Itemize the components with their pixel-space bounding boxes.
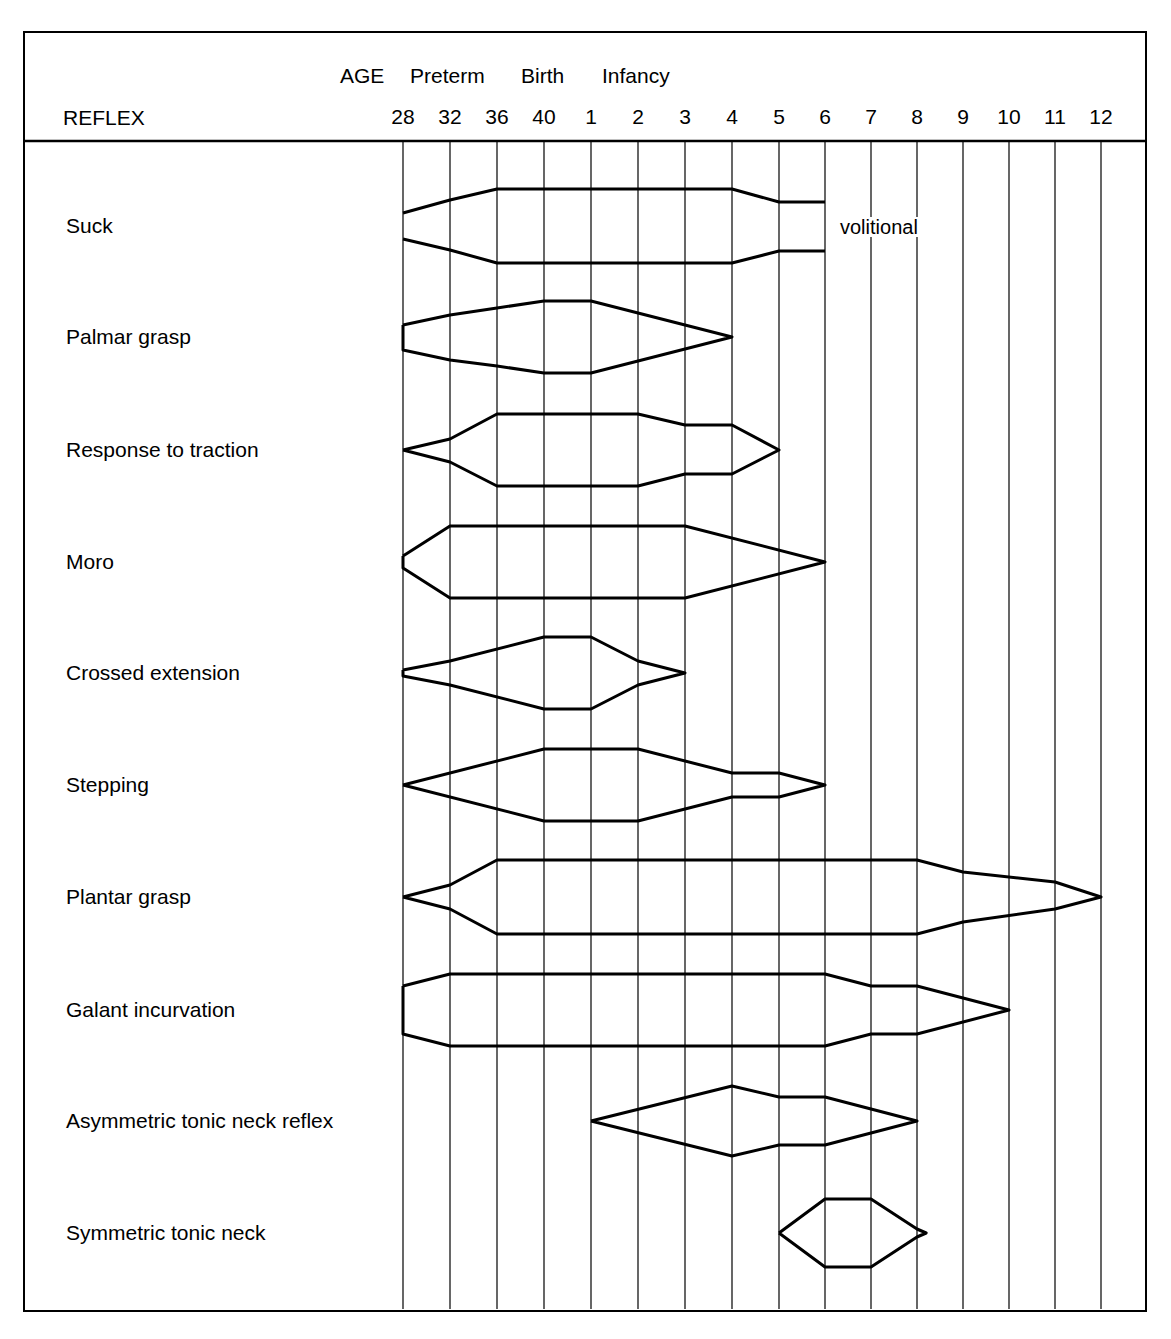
reflex-label: Symmetric tonic neck <box>66 1222 266 1243</box>
x-tick-label: 28 <box>391 106 414 127</box>
x-tick-label: 5 <box>773 106 785 127</box>
reflex-shape <box>403 189 825 263</box>
x-tick-label: 36 <box>485 106 508 127</box>
x-tick-label: 7 <box>865 106 877 127</box>
x-tick-label: 9 <box>957 106 969 127</box>
period-label: Birth <box>521 65 564 86</box>
x-tick-label: 4 <box>726 106 738 127</box>
reflex-shape <box>591 1086 917 1156</box>
x-tick-label: 3 <box>679 106 691 127</box>
x-tick-label: 8 <box>911 106 923 127</box>
period-label: Preterm <box>410 65 485 86</box>
x-tick-label: 2 <box>632 106 644 127</box>
reflex-label: Stepping <box>66 774 149 795</box>
reflex-header: REFLEX <box>63 107 145 128</box>
x-tick-label: 12 <box>1089 106 1112 127</box>
age-header: AGE <box>340 65 384 86</box>
x-tick-label: 6 <box>819 106 831 127</box>
reflex-shape <box>403 526 825 598</box>
grid-lines <box>403 141 1101 1309</box>
reflex-label: Moro <box>66 551 114 572</box>
reflex-label: Galant incurvation <box>66 999 235 1020</box>
reflex-shape <box>779 1199 926 1267</box>
reflex-label: Palmar grasp <box>66 326 191 347</box>
volitional-annotation: volitional <box>838 217 920 237</box>
reflex-label: Asymmetric tonic neck reflex <box>66 1110 333 1131</box>
x-tick-label: 10 <box>997 106 1020 127</box>
x-tick-label: 11 <box>1044 106 1066 127</box>
x-tick-label: 40 <box>532 106 555 127</box>
reflex-label: Response to traction <box>66 439 259 460</box>
x-tick-label: 32 <box>438 106 461 127</box>
reflex-shape <box>403 974 1009 1046</box>
reflex-label: Crossed extension <box>66 662 240 683</box>
reflex-shape <box>403 301 732 373</box>
reflex-shape <box>403 860 1101 934</box>
reflex-shapes <box>403 189 1101 1267</box>
x-tick-label: 1 <box>585 106 597 127</box>
period-label: Infancy <box>602 65 670 86</box>
reflex-label: Suck <box>66 215 113 236</box>
reflex-shape <box>403 749 825 821</box>
reflex-label: Plantar grasp <box>66 886 191 907</box>
